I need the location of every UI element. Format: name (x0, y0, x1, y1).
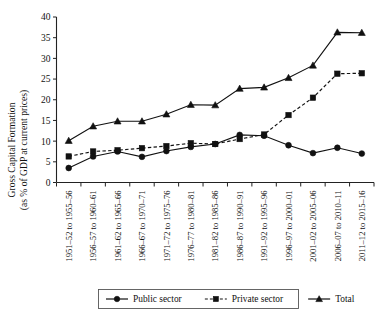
data-point-circle (66, 165, 72, 171)
data-point-square (90, 149, 95, 154)
data-point-square (335, 71, 340, 76)
data-point-triangle (65, 137, 72, 143)
y-tick-label: 20 (41, 95, 51, 105)
y-axis-ticks: 0510152025303540 (41, 12, 57, 188)
data-point-circle (139, 154, 145, 160)
data-point-square (213, 296, 218, 301)
x-tick-label: 1981–82 to 1985–86 (210, 190, 220, 262)
x-tick-label: 1951–52 to 1955–56 (64, 190, 74, 262)
y-tick-label: 15 (41, 116, 51, 126)
series-private-sector (66, 71, 364, 160)
data-point-square (188, 140, 193, 145)
x-tick-label: 1971–72 to 1975–76 (162, 190, 172, 262)
data-point-circle (359, 151, 365, 157)
y-tick-label: 10 (41, 137, 51, 147)
series-public-sector (66, 132, 365, 171)
y-tick-label: 40 (41, 12, 51, 22)
data-point-square (115, 148, 120, 153)
x-axis-ticks: 1951–52 to 1955–561956–57 to 1960–611961… (57, 183, 375, 262)
chart-container: Gross Capital Formation (as % of GDP at … (0, 0, 383, 323)
x-tick-label: 1961–62 to 1965–66 (113, 190, 123, 262)
y-axis-title: Gross Capital Formation (as % of GDP at … (6, 90, 30, 211)
legend-label: Public sector (133, 294, 183, 304)
data-point-square (213, 141, 218, 146)
x-tick-label: 1976–77 to 1980–81 (186, 191, 196, 262)
y-tick-label: 0 (46, 178, 51, 188)
data-point-circle (286, 142, 292, 148)
series-line (69, 32, 362, 140)
data-point-square (66, 154, 71, 159)
y-tick-label: 35 (41, 33, 51, 43)
data-point-square (286, 112, 291, 117)
data-point-circle (114, 296, 120, 302)
y-axis-title-line1: Gross Capital Formation (6, 102, 17, 197)
chart-legend: Public sectorPrivate sectorTotal (99, 290, 355, 309)
data-point-circle (334, 145, 340, 151)
y-tick-label: 25 (41, 74, 51, 84)
x-tick-label: 1991–92 to 1995–96 (259, 190, 269, 262)
gross-capital-formation-line-chart: Gross Capital Formation (as % of GDP at … (0, 0, 383, 323)
data-point-square (359, 71, 364, 76)
x-tick-label: 1956–57 to 1960–61 (88, 191, 98, 262)
series-total (65, 29, 365, 144)
data-point-square (237, 136, 242, 141)
data-point-square (310, 95, 315, 100)
legend-item-total[interactable]: Total (308, 294, 355, 304)
x-tick-label: 2001–02 to 2005–06 (308, 190, 318, 262)
y-tick-label: 30 (41, 54, 51, 64)
y-tick-label: 5 (46, 157, 51, 167)
data-point-square (139, 145, 144, 150)
data-point-circle (310, 150, 316, 156)
data-point-square (261, 132, 266, 137)
data-point-triangle (285, 74, 292, 80)
y-axis-title-line2: (as % of GDP at current prices) (18, 90, 30, 211)
x-tick-label: 1986–87 to 1990–91 (235, 191, 245, 262)
x-tick-label: 2006–07 to 2010–11 (333, 191, 343, 262)
x-tick-label: 1966–67 to 1970–71 (137, 191, 147, 262)
x-tick-label: 2011–12 to 2015–16 (357, 190, 367, 262)
legend-label: Total (335, 294, 355, 304)
series-line (69, 135, 362, 168)
data-series-group (65, 29, 365, 171)
data-point-square (164, 143, 169, 148)
legend-label: Private sector (232, 294, 284, 304)
x-tick-label: 1996–97 to 2000–01 (284, 191, 294, 262)
